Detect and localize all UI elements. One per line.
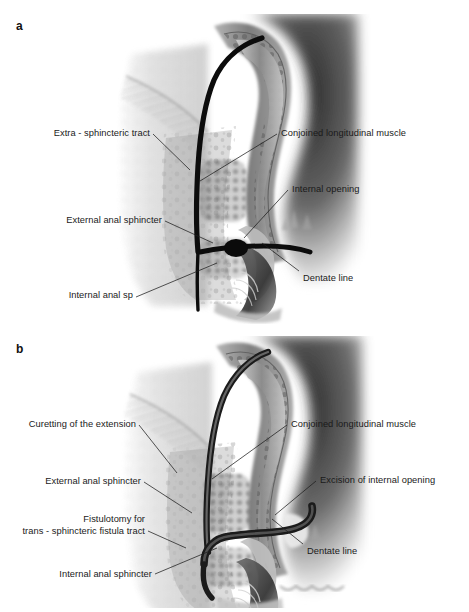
label-internal-opening-a: Internal opening [292, 184, 359, 196]
label-fistulotomy-line1: Fistulotomy for [0, 514, 145, 526]
panel-a: a [0, 0, 469, 330]
panel-letter-a: a [16, 20, 23, 32]
label-external-anal-sphincter-b: External anal sphincter [0, 476, 141, 488]
label-fistulotomy-line2: trans - sphincteric fistula tract [0, 526, 145, 538]
label-conjoined-longitudinal-muscle-b: Conjoined longitudinal muscle [291, 419, 416, 431]
label-curetting-of-the-extension-b: Curetting of the extension [0, 419, 136, 431]
figure-root: a [0, 0, 469, 612]
label-extra-sphincteric-tract-a: Extra - sphincteric tract [0, 128, 150, 140]
label-external-anal-sphincter-a: External anal sphincter [0, 215, 162, 227]
label-dentate-line-b: Dentate line [307, 546, 357, 558]
panel-b: b [0, 330, 469, 612]
illustration-b [100, 336, 380, 608]
label-excision-of-internal-opening-b: Excision of internal opening [320, 475, 435, 487]
label-fistulotomy-b: Fistulotomy for trans - sphincteric fist… [0, 514, 145, 537]
label-internal-anal-sphincter-b: Internal anal sphincter [0, 569, 152, 581]
label-conjoined-longitudinal-muscle-a: Conjoined longitudinal muscle [281, 128, 406, 140]
label-dentate-line-a: Dentate line [303, 273, 353, 285]
panel-letter-b: b [16, 343, 23, 355]
label-internal-anal-sphincter-a: Internal anal sp [0, 290, 133, 302]
